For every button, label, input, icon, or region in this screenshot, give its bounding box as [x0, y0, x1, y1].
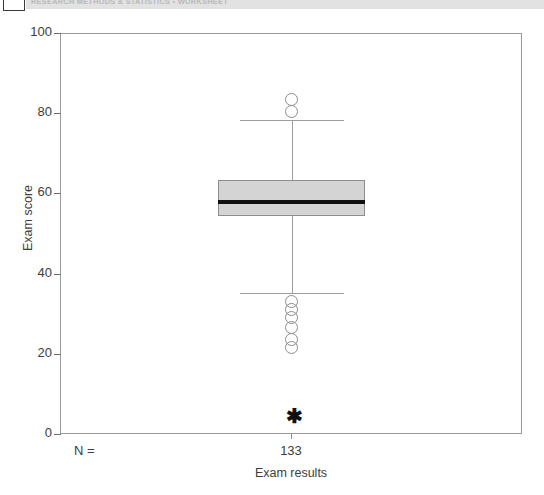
y-axis-tick [54, 33, 61, 34]
n-label: N = [74, 443, 95, 458]
header-marker-box [3, 0, 25, 11]
whisker-upper [292, 120, 293, 180]
y-axis-tick [54, 274, 61, 275]
x-axis-title: Exam results [191, 466, 391, 480]
n-count-value: 133 [231, 443, 351, 458]
y-axis-tick [54, 434, 61, 435]
x-axis-tick [291, 434, 292, 439]
whisker-cap-lower [240, 293, 344, 294]
outlier-point [285, 341, 298, 354]
y-axis-tick [54, 354, 61, 355]
boxplot-series: ✱ [0, 11, 544, 495]
y-axis-tick [54, 193, 61, 194]
extreme-outlier-asterisk: ✱ [286, 411, 303, 421]
header-title: RESEARCH METHODS & STATISTICS • WORKSHEE… [31, 0, 228, 7]
whisker-cap-upper [240, 120, 344, 121]
median-line [218, 200, 365, 204]
boxplot-figure: Exam score 020406080100 ✱ N = 133 Exam r… [0, 11, 544, 495]
whisker-lower [292, 216, 293, 293]
outlier-point [285, 105, 298, 118]
y-axis-tick [54, 113, 61, 114]
running-header: RESEARCH METHODS & STATISTICS • WORKSHEE… [0, 0, 544, 11]
outlier-point [285, 93, 298, 106]
box-iqr [218, 180, 365, 216]
